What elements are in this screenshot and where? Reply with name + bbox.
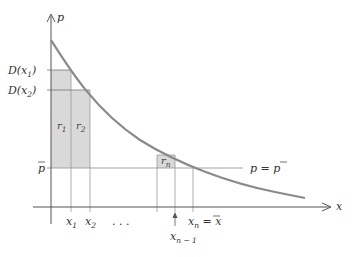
label-xn-eq-xbar: xn = x — [188, 215, 222, 230]
label-x1: x1 — [66, 215, 77, 230]
label-x2: x2 — [85, 215, 96, 230]
up-arrow-icon — [173, 212, 178, 218]
label-d-x2: D(x2) — [7, 84, 36, 99]
label-ellipsis: . . . — [112, 215, 129, 228]
label-p-eq-pbar: p = p — [250, 162, 280, 175]
label-p-bar: p — [38, 162, 45, 175]
x-axis-label: x — [336, 200, 343, 213]
rect-r1 — [51, 70, 71, 168]
label-xn-minus-1: xn − 1 — [170, 230, 197, 245]
consumer-surplus-diagram: p x D(x1) D(x2) p p = p r1 r2 rn x1 x2 .… — [0, 0, 362, 257]
y-axis-label: p — [57, 11, 64, 24]
label-d-x1: D(x1) — [7, 64, 36, 79]
